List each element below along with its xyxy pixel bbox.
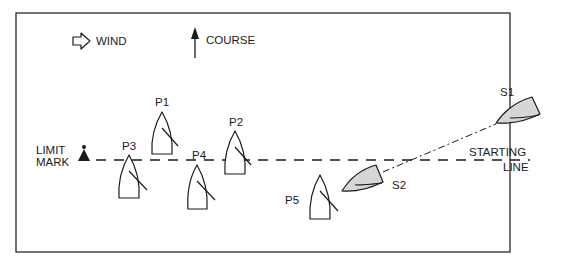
wind-legend: WIND [73,33,127,49]
starting-line-label-2: LINE [503,161,529,173]
boat-hull [225,131,245,174]
course-arrow-icon [191,27,199,39]
boat-label: P4 [192,149,207,161]
boat-p4: P4 [188,149,215,209]
limit-mark: LIMIT MARK [36,144,90,168]
wind-label: WIND [96,35,127,47]
boat-hull [342,165,383,191]
boat-p2: P2 [225,116,251,174]
limit-mark-label-1: LIMIT [36,144,65,156]
boat-s1: S1 [496,86,540,123]
boat-hull [310,175,330,219]
boat-label: P3 [122,140,136,152]
diagram-frame [16,13,510,252]
starting-line-label-1: STARTING [469,146,526,158]
boat-p1: P1 [152,96,178,154]
course-legend: COURSE [191,27,256,58]
boat-label: P5 [285,194,299,206]
boat-label: P1 [155,96,169,108]
limit-mark-buoy-icon [78,149,90,161]
sailing-diagram: WIND COURSE LIMIT MARK STARTING LINE P1 … [0,0,567,261]
boat-s2: S2 [342,165,406,191]
boat-label: S1 [500,86,514,98]
boat-p3: P3 [119,140,147,198]
wind-arrow-icon [73,33,90,49]
limit-mark-label-2: MARK [36,156,70,168]
boat-p5: P5 [285,175,338,219]
boat-label: P2 [229,116,243,128]
boat-label: S2 [392,179,406,191]
boat-hull [496,97,540,123]
course-label: COURSE [206,34,256,46]
boat-hull [119,155,139,198]
boat-hull [152,112,172,154]
limit-mark-buoy-top [82,145,86,149]
boat-hull [188,165,207,209]
